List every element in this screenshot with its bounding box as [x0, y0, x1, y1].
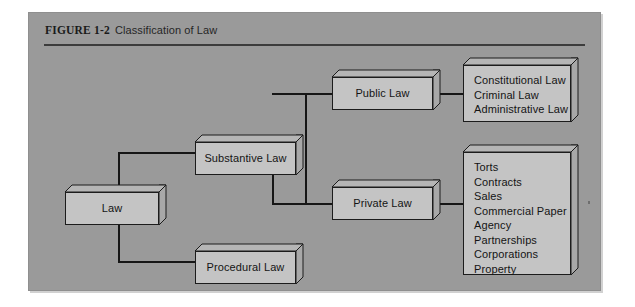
connector-trunk-private: [272, 203, 333, 205]
connector-trunk-public: [305, 93, 333, 95]
law-label: Law: [102, 201, 122, 216]
node-public-law-items[interactable]: Constitutional Law Criminal Law Administ…: [463, 58, 578, 122]
node-substantive-law[interactable]: Substantive Law: [195, 135, 303, 175]
public-law-label: Public Law: [355, 86, 409, 101]
substantive-face: Substantive Law: [195, 142, 296, 175]
list-item: Commercial Paper: [474, 204, 567, 219]
private-items-face: Torts Contracts Sales Commercial Paper A…: [463, 152, 571, 275]
procedural-law-label: Procedural Law: [207, 260, 285, 275]
list-item: Property: [474, 262, 567, 277]
list-item: Contracts: [474, 175, 567, 190]
node-law[interactable]: Law: [65, 185, 166, 225]
public-law-items-list: Constitutional Law Criminal Law Administ…: [474, 73, 568, 117]
figure-root: FIGURE 1-2Classification of Law: [0, 0, 635, 307]
private-law-items-list: Torts Contracts Sales Commercial Paper A…: [474, 160, 567, 276]
list-item: Corporations: [474, 247, 567, 262]
connector-substantive-to-trunk: [272, 93, 306, 95]
list-item: Constitutional Law: [474, 73, 568, 88]
list-item: Partnerships: [474, 233, 567, 248]
node-procedural-law[interactable]: Procedural Law: [195, 244, 303, 284]
connector-trunk-right: [305, 93, 307, 203]
scan-artifact: [588, 201, 590, 204]
private-law-label: Private Law: [353, 196, 412, 211]
node-private-law-items[interactable]: Torts Contracts Sales Commercial Paper A…: [463, 145, 578, 275]
list-item: Criminal Law: [474, 88, 568, 103]
connector-trunk-substantive: [118, 152, 196, 154]
procedural-face: Procedural Law: [195, 251, 296, 284]
list-item: Torts: [474, 160, 567, 175]
private-face: Private Law: [332, 187, 433, 220]
substantive-law-label: Substantive Law: [204, 151, 286, 166]
connector-trunk-procedural: [118, 261, 196, 263]
list-item: Sales: [474, 189, 567, 204]
public-items-face: Constitutional Law Criminal Law Administ…: [463, 65, 571, 122]
node-private-law[interactable]: Private Law: [332, 180, 440, 220]
figure-panel: FIGURE 1-2Classification of Law: [28, 12, 601, 291]
law-face: Law: [65, 192, 159, 225]
figure-number: FIGURE 1-2: [45, 24, 110, 36]
figure-title: Classification of Law: [115, 24, 217, 36]
node-public-law[interactable]: Public Law: [332, 70, 440, 110]
list-item: Agency: [474, 218, 567, 233]
public-face: Public Law: [332, 77, 433, 110]
caption-divider: [44, 44, 585, 46]
figure-caption: FIGURE 1-2Classification of Law: [45, 24, 217, 36]
list-item: Administrative Law: [474, 102, 568, 117]
